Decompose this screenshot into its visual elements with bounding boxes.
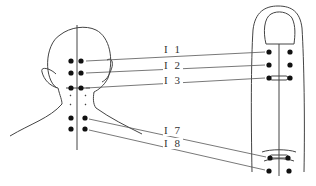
- label-I1: I 1: [163, 44, 183, 55]
- point-I1-right: [78, 58, 83, 63]
- point-I8-left: [68, 126, 73, 131]
- point-I2-left: [68, 70, 73, 75]
- point-I2-right: [78, 70, 83, 75]
- point-I1-left: [68, 58, 73, 63]
- finger-point-I2-left: [266, 62, 271, 67]
- label-I3: I 3: [163, 75, 183, 86]
- head-acupoints: [68, 58, 87, 131]
- acupoint-diagram: I 1 I 2 I 3 I 7 I 8: [0, 0, 316, 186]
- finger-point-I3-left: [266, 75, 271, 80]
- finger-point-I1-right: [287, 49, 292, 54]
- diagram-drawing: [0, 0, 316, 186]
- finger-point-I7-left: [267, 155, 272, 160]
- finger-point-I1-left: [266, 49, 271, 54]
- finger-point-I8-left: [266, 168, 271, 173]
- point-I3-left: [68, 85, 73, 90]
- finger-point-I2-right: [287, 62, 292, 67]
- point-I7-left: [68, 115, 73, 120]
- finger-figure: [251, 6, 304, 176]
- label-I2: I 2: [163, 60, 183, 71]
- point-I8-right: [82, 126, 87, 131]
- head-figure: [10, 25, 142, 150]
- label-I7: I 7: [163, 125, 183, 136]
- point-I7-right: [82, 115, 87, 120]
- label-I8: I 8: [163, 138, 183, 149]
- leader-I8: [89, 130, 265, 170]
- finger-point-I7-right: [285, 155, 290, 160]
- point-I3-right: [78, 85, 83, 90]
- finger-point-I3-right: [287, 75, 292, 80]
- finger-point-I8-right: [286, 168, 291, 173]
